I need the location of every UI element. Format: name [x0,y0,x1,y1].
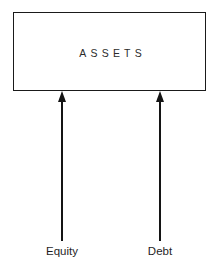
diagram-canvas: ASSETS Equity Debt [0,0,217,268]
equity-arrow [55,91,68,241]
assets-box: ASSETS [13,12,206,91]
equity-arrow-shaft [61,100,63,241]
debt-label: Debt [98,245,217,257]
debt-arrow-shaft [159,100,161,241]
assets-box-label: ASSETS [14,13,207,92]
debt-arrow [153,91,166,241]
